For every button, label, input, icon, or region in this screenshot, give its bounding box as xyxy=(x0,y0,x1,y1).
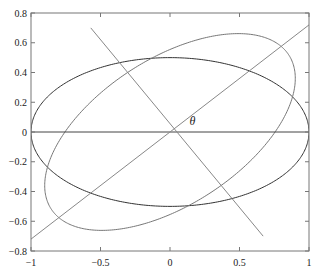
y-tick-label: 0.2 xyxy=(15,97,28,108)
annotations: θ xyxy=(189,114,195,128)
x-axis-tick-labels: −1−0.500.51 xyxy=(26,257,312,268)
x-tick-label: 1 xyxy=(307,257,312,268)
x-tick-label: −1 xyxy=(26,257,37,268)
chart: −1−0.500.51 0.80.60.40.20−0.2−0.4−0.6−0.… xyxy=(0,0,320,275)
y-tick-label: 0.4 xyxy=(15,67,28,78)
y-tick-label: 0 xyxy=(22,127,27,138)
y-tick-label: −0.6 xyxy=(9,216,27,227)
y-tick-label: 0.8 xyxy=(15,8,28,19)
y-tick-label: −0.4 xyxy=(9,186,27,197)
theta-label: θ xyxy=(189,114,195,128)
x-tick-label: −0.5 xyxy=(91,257,109,268)
y-tick-label: −0.8 xyxy=(9,246,27,257)
y-axis-tick-labels: 0.80.60.40.20−0.2−0.4−0.6−0.8 xyxy=(9,8,27,257)
x-tick-label: 0 xyxy=(168,257,173,268)
x-tick-label: 0.5 xyxy=(233,257,246,268)
y-tick-label: −0.2 xyxy=(9,156,27,167)
y-tick-label: 0.6 xyxy=(15,37,28,48)
plot-area xyxy=(31,25,309,239)
